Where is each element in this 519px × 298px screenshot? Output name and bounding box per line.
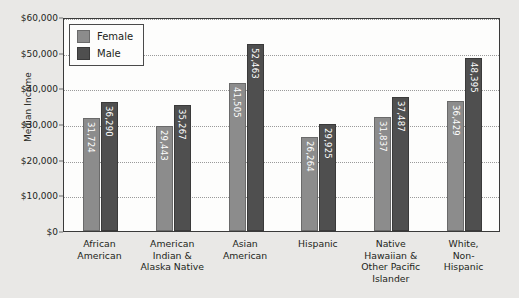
bar-female: 36,429 [447,101,464,231]
bar-female: 29,443 [156,126,173,231]
x-axis-label-line: Indian & [153,250,192,261]
y-axis-tick-label: $20,000 [0,156,58,166]
y-axis-tick-label: $60,000 [0,13,58,23]
bar-value-label: 36,429 [451,105,461,136]
median-income-bar-chart: Median Income $60,000$50,000$40,000$30,0… [0,0,519,298]
legend-item-male: Male [77,47,133,60]
x-axis-label-line: American [223,250,267,261]
bar-value-label: 48,395 [469,62,479,93]
bar-female: 41,505 [229,83,246,231]
bar-value-label: 31,724 [86,122,96,153]
bar-group: 36,42948,395 [447,19,482,231]
x-axis-label: White,Non-Hispanic [427,238,500,273]
y-axis-tick-labels: $60,000$50,000$40,000$30,000$20,000$10,0… [0,18,58,232]
legend-item-female: Female [77,30,133,43]
bar-male: 29,925 [319,124,336,231]
x-axis-label-line: Native [376,238,406,249]
bar-value-label: 36,290 [104,106,114,137]
x-axis-label-line: African [83,238,115,249]
bar-male: 35,267 [174,105,191,231]
legend: Female Male [69,24,144,66]
x-axis-label: NativeHawaiian &Other PacificIslander [354,238,427,284]
x-axis-label-line: Asian [232,238,257,249]
bar-group: 41,50552,463 [229,19,264,231]
x-axis-label-line: Hispanic [298,238,338,249]
bar-female: 26,264 [301,137,318,231]
bar-value-label: 37,487 [396,101,406,132]
bar-female: 31,724 [83,118,100,231]
bar-value-label: 29,443 [159,130,169,161]
y-axis-tick-label: $0 [0,227,58,237]
x-axis-label-line: Hispanic [444,261,484,272]
y-axis-tick-label: $50,000 [0,49,58,59]
x-axis-category-labels: AfricanAmericanAmericanIndian &Alaska Na… [63,238,500,296]
bar-male: 48,395 [465,58,482,231]
x-axis-label-line: White, [449,238,479,249]
y-axis-tick-label: $30,000 [0,120,58,130]
x-axis-label-line: Alaska Native [141,261,204,272]
bar-value-label: 41,505 [232,87,242,118]
y-axis-tick-label: $40,000 [0,84,58,94]
x-axis-label: Hispanic [282,238,355,250]
bar-value-label: 29,925 [323,128,333,159]
x-axis-label-line: Islander [372,273,409,284]
bar-group: 26,26429,925 [301,19,336,231]
bar-value-label: 26,264 [305,141,315,172]
x-axis-label: AsianAmerican [209,238,282,261]
bar-group: 29,44335,267 [156,19,191,231]
x-axis-label-line: American [150,238,194,249]
x-axis-label-line: Other Pacific [361,261,420,272]
x-axis-label: AmericanIndian &Alaska Native [136,238,209,273]
legend-label-male: Male [97,48,121,59]
x-axis-label-line: Hawaiian & [364,250,417,261]
legend-swatch-male-icon [77,47,90,60]
bar-value-label: 35,267 [177,109,187,140]
y-axis-tick-label: $10,000 [0,191,58,201]
legend-swatch-female-icon [77,30,90,43]
legend-label-female: Female [97,31,133,42]
x-axis-label-line: American [77,250,121,261]
bar-male: 52,463 [247,44,264,231]
bar-female: 31,837 [374,117,391,231]
bar-value-label: 31,837 [378,121,388,152]
x-axis-label-line: Non- [453,250,475,261]
bar-male: 36,290 [101,102,118,231]
bar-value-label: 52,463 [250,48,260,79]
x-axis-label: AfricanAmerican [63,238,136,261]
bar-male: 37,487 [392,97,409,231]
bar-group: 31,83737,487 [374,19,409,231]
